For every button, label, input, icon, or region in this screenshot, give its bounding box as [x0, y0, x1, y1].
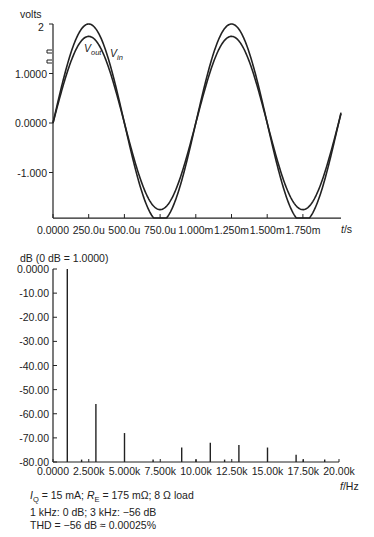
waveform-plot: volts 2 1.00000.0000-1.000 0.0000250.0u5… — [15, 8, 352, 236]
y-top-label: 2 — [38, 21, 44, 33]
x-tick-label: 1.750m — [285, 224, 320, 236]
x-tick-label: 0.0000 — [37, 224, 69, 236]
x-tick-label: 17.50k — [287, 465, 319, 477]
x-tick-label: 5.000k — [109, 465, 141, 477]
waveform-y-ticks: 1.00000.0000-1.000 — [15, 24, 53, 179]
figure: volts 2 1.00000.0000-1.000 0.0000250.0u5… — [0, 0, 374, 537]
legend-vout: Vout — [84, 42, 102, 57]
y-tick-label: 1.0000 — [15, 68, 47, 80]
x-tick-label: 1.000m — [178, 224, 213, 236]
x-tick-label: 2.500k — [73, 465, 105, 477]
y-tick-label: -70.00 — [19, 432, 49, 444]
x-tick-label: 15.00k — [252, 465, 284, 477]
y-tick-label: -30.00 — [19, 335, 49, 347]
y-tick-label: 0.0000 — [15, 117, 47, 129]
y-tick-label: -1.000 — [17, 167, 47, 179]
y-axis-title: volts — [20, 8, 42, 20]
x-tick-label: 0.0000 — [37, 465, 69, 477]
caption-line-2: 1 kHz: 0 dB; 3 kHz: −56 dB — [30, 506, 194, 519]
x-tick-label: 750.0u — [144, 224, 176, 236]
spectrum-x-axis-title: f/Hz — [340, 480, 359, 492]
series-vin — [53, 36, 341, 209]
caption-line-3: THD = −56 dB ≈ 0.00025% — [30, 519, 194, 532]
x-tick-label: 12.50k — [216, 465, 248, 477]
x-tick-label: 20.00k — [323, 465, 355, 477]
y-tick-label: -50.00 — [19, 384, 49, 396]
y-tick-label: -20.00 — [19, 311, 49, 323]
x-tick-label: 500.0u — [108, 224, 140, 236]
x-tick-label: 250.0u — [73, 224, 105, 236]
axis-marker-icons — [47, 50, 52, 63]
caption: IQ = 15 mA; RE = 175 mΩ; 8 Ω load 1 kHz:… — [30, 489, 194, 532]
x-tick-label: 7.500k — [144, 465, 176, 477]
legend-vin: Vin — [110, 47, 123, 62]
y-tick-label: 0.0000 — [17, 263, 49, 275]
y-tick-label: -40.00 — [19, 360, 49, 372]
y-tick-label: -10.00 — [19, 287, 49, 299]
spectrum-y-ticks: 0.0000-10.00-20.00-30.00-40.00-50.00-60.… — [17, 263, 57, 468]
x-tick-label: 1.500m — [250, 224, 285, 236]
x-axis-title: t/s — [341, 223, 352, 235]
spectrum-plot: dB (0 dB = 1.0000) 0.0000-10.00-20.00-30… — [17, 252, 359, 492]
spectrum-bars — [67, 269, 324, 462]
x-tick-label: 1.250m — [214, 224, 249, 236]
waveform-x-ticks: 0.0000250.0u500.0u750.0u1.000m1.250m1.50… — [37, 214, 321, 236]
x-tick-label: 10.00k — [180, 465, 212, 477]
caption-line-1: IQ = 15 mA; RE = 175 mΩ; 8 Ω load — [30, 489, 194, 506]
y-tick-label: -60.00 — [19, 408, 49, 420]
